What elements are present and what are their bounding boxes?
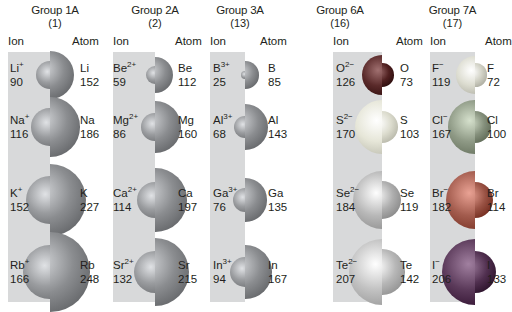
atom-label: Se119 [400,186,418,214]
atom-radius: 142 [400,272,419,286]
ion-sphere-li [36,61,50,90]
ion-radius: 170 [336,127,355,141]
atom-radius: 73 [400,75,413,89]
atom-radius: 85 [268,75,281,89]
ion-label: Ga3+76 [213,186,237,214]
atom-symbol: Te [400,258,419,272]
ion-label: Br−182 [432,186,451,214]
ion-charge: + [19,60,24,69]
ion-radius: 86 [113,127,138,141]
atom-symbol: Na [80,113,99,127]
atom-symbol: O [400,61,413,75]
atom-header: Atom [485,35,512,48]
ion-label: S2−170 [336,113,355,141]
atom-radius: 186 [80,127,99,141]
group-number: (13) [200,17,280,30]
atom-radius: 114 [487,200,505,214]
ion-label: F−119 [432,61,450,89]
ion-radius: 76 [213,200,237,214]
atom-label: I133 [487,258,506,286]
atom-label: Li152 [80,61,99,89]
atom-sphere-f [475,63,487,86]
atom-radius: 152 [80,75,99,89]
ion-label: Se2−184 [336,186,359,214]
atom-symbol: K [80,186,99,200]
atom-symbol: Ca [178,186,197,200]
ion-sphere-f [456,56,475,94]
atom-sphere-mg [155,101,181,152]
ion-symbol: Se2− [336,186,359,200]
ion-sphere-mg [141,113,155,141]
ion-charge: 2+ [128,185,137,194]
ion-radius: 119 [432,75,450,89]
atom-radius: 103 [400,127,419,141]
ion-symbol: Te2− [336,258,357,272]
ion-label: Be2+59 [113,61,136,89]
atom-label: Br114 [487,186,505,214]
atom-radius: 143 [268,127,287,141]
ion-charge: 3+ [221,60,230,69]
ion-symbol: In3+ [213,258,232,272]
ion-label: Te2−207 [336,258,357,286]
atom-label: Rb248 [80,258,99,286]
atom-radius: 135 [268,200,287,214]
ion-charge: + [25,257,30,266]
ion-charge: 2− [350,185,359,194]
ion-sphere-sr [134,251,155,293]
ion-sphere-al [234,116,245,138]
group-title: Group 2A [105,4,205,17]
atom-radius: 248 [80,272,99,286]
group-title: Group 6A [300,4,380,17]
ion-symbol: Cl− [432,113,451,127]
ion-sphere-cl [448,100,475,153]
ion-radius: 116 [10,127,29,141]
atom-header: Atom [260,35,287,48]
atom-label: Be112 [178,61,196,89]
atom-radius: 72 [487,75,500,89]
atom-label: B85 [268,61,281,89]
atom-symbol: Br [487,186,505,200]
ion-charge: + [18,185,23,194]
group-title: Group 7A [405,4,500,17]
ion-charge: 2+ [125,257,134,266]
atom-sphere-s [382,111,398,144]
ion-radius: 206 [432,272,451,286]
atom-label: K227 [80,186,99,214]
ion-radius: 25 [213,75,230,89]
atom-radius: 167 [268,272,287,286]
ion-header: Ion [430,35,446,48]
ion-charge: − [443,112,448,121]
ion-symbol: Ga3+ [213,186,237,200]
atom-label: In167 [268,258,287,286]
ion-charge: − [435,257,440,266]
atom-symbol: Sr [178,258,197,272]
ion-radius: 94 [213,272,232,286]
ion-charge: 2− [344,112,353,121]
atom-label: F72 [487,61,500,89]
atom-symbol: Se [400,186,418,200]
ion-radius: 90 [10,75,24,89]
ion-sphere-k [26,176,50,225]
atom-symbol: Al [268,113,287,127]
atom-symbol: S [400,113,419,127]
group-number: (17) [405,17,500,30]
ion-symbol: Rb+ [10,258,29,272]
atom-label: Ca197 [178,186,197,214]
atom-radius: 119 [400,200,418,214]
ion-charge: − [439,60,444,69]
atom-sphere-b [245,61,259,88]
ion-radius: 184 [336,200,359,214]
ion-symbol: Na+ [10,113,29,127]
ion-label: O2−126 [336,61,355,89]
group-number: (1) [0,17,110,30]
ion-charge: 3+ [223,112,232,121]
ion-header: Ion [8,35,24,48]
atom-radius: 160 [178,127,197,141]
atom-sphere-ga [245,178,267,221]
group-title: Group 1A [0,4,110,17]
atom-radius: 133 [487,272,506,286]
ion-radius: 152 [10,200,29,214]
ion-radius: 114 [113,200,137,214]
ion-charge: 2− [348,257,357,266]
ion-charge: 2+ [129,112,138,121]
